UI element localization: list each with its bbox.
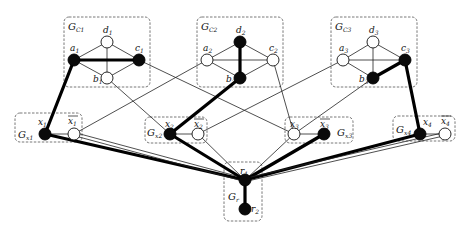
node-a2 [201, 54, 213, 66]
node-label-a2: a2 [203, 43, 212, 54]
node-a3 [337, 54, 349, 66]
node-c2 [267, 54, 279, 66]
node-nx1 [68, 128, 80, 140]
node-label-c3: c3 [401, 43, 410, 54]
gadget-label-gr: Gr [228, 191, 240, 203]
edge-nx3-r1 [245, 134, 324, 180]
node-label-nx2: x2 [194, 119, 203, 130]
node-label-x2: x2 [165, 119, 174, 130]
edge-b2-x2 [170, 78, 240, 134]
node-d2 [234, 36, 246, 48]
node-nx4 [439, 128, 451, 140]
node-d1 [101, 36, 113, 48]
node-label-a3: a3 [339, 43, 348, 54]
node-r2 [239, 203, 251, 215]
edge-x2-r1 [170, 134, 245, 180]
edge-x4-r1 [245, 134, 420, 180]
node-label-nx4: x4 [441, 116, 450, 127]
node-c1 [133, 54, 145, 66]
node-label-r2: r2 [251, 204, 259, 215]
node-label-d1: d1 [103, 25, 113, 36]
gadget-label-gx1: Gx1 [18, 129, 33, 141]
node-label-d3: d3 [369, 25, 379, 36]
edge-x1-r1 [45, 134, 245, 180]
edge-c3-x4 [405, 60, 420, 134]
node-b3 [367, 72, 379, 84]
gadget-label-gx4: Gx4 [396, 124, 411, 136]
gadget-label-gc2: GC2 [201, 21, 218, 33]
gadget-label-gc1: GC1 [68, 21, 84, 33]
node-label-x3: x3 [290, 119, 299, 130]
reduction-graph-diagram: GC1GC2GC3Gx1Gx2Gx3Gx4Gra1d1c1b1a2d2c2b2a… [0, 0, 472, 233]
node-x4 [414, 128, 426, 140]
edge-nx1-r1 [74, 136, 245, 182]
node-label-x4: x4 [423, 117, 432, 128]
node-c3 [399, 54, 411, 66]
edge-b1-x2 [107, 78, 170, 134]
node-a1 [68, 54, 80, 66]
edge-nx4-r1 [245, 136, 445, 182]
node-x1 [39, 128, 51, 140]
gadget-label-gc3: GC3 [335, 21, 352, 33]
node-label-r1: r1 [240, 166, 248, 177]
node-b1 [101, 72, 113, 84]
node-label-d2: d2 [236, 25, 246, 36]
node-label-c1: c1 [135, 43, 144, 54]
edge-nx4-r1 [245, 132, 445, 178]
graph-labels: GC1GC2GC3Gx1Gx2Gx3Gx4Gra1d1c1b1a2d2c2b2a… [18, 21, 451, 215]
node-d3 [367, 36, 379, 48]
gadget-label-gx2: Gx2 [147, 127, 162, 139]
node-label-x1: x1 [38, 117, 47, 128]
node-label-nx3: x3 [320, 119, 329, 130]
node-b2 [234, 72, 246, 84]
node-label-c2: c2 [269, 43, 278, 54]
node-label-nx1: x1 [68, 116, 77, 127]
gadget-label-gx3: Gx3 [337, 127, 352, 139]
node-label-a1: a1 [70, 43, 79, 54]
